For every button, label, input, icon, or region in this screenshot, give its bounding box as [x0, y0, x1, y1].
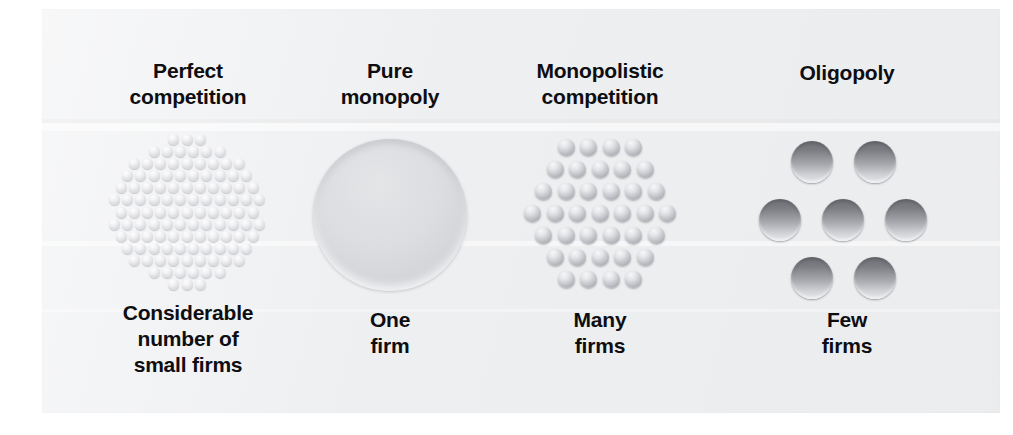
- firm-dot-medium: [648, 227, 665, 244]
- firm-dot-small: [135, 170, 146, 181]
- firm-dot-medium: [558, 183, 575, 200]
- firm-dot-small: [182, 134, 193, 145]
- firm-dot-small: [142, 255, 153, 266]
- firm-dot-medium: [558, 227, 575, 244]
- firm-dot-small: [208, 207, 219, 218]
- column-oligopoly: Oligopoly Few firms: [742, 0, 952, 435]
- firm-dot-large: [854, 257, 896, 299]
- firm-dot-small: [228, 219, 239, 230]
- firm-dot-small: [188, 194, 199, 205]
- firm-dot-small: [241, 170, 252, 181]
- firm-dot-small: [142, 207, 153, 218]
- firm-dot-small: [168, 207, 179, 218]
- firm-dot-small: [188, 219, 199, 230]
- monopoly-circle: [313, 139, 467, 291]
- firm-dot-small: [248, 231, 259, 242]
- firm-dot-medium: [569, 161, 586, 178]
- firm-dot-small: [129, 255, 140, 266]
- firm-dot-small: [241, 219, 252, 230]
- firm-dot-small: [201, 267, 212, 278]
- firm-dot-small: [201, 219, 212, 230]
- firm-dot-medium: [603, 183, 620, 200]
- firm-dot-medium: [637, 205, 654, 222]
- firm-dot-small: [228, 194, 239, 205]
- firm-dot-small: [175, 194, 186, 205]
- firm-dot-small: [162, 267, 173, 278]
- firm-dot-medium: [625, 139, 642, 156]
- figure-root: Perfect competition Considerable number …: [0, 0, 1013, 435]
- firm-dot-small: [215, 267, 226, 278]
- firm-dot-small: [195, 134, 206, 145]
- firm-dot-small: [182, 158, 193, 169]
- firm-dot-small: [175, 219, 186, 230]
- firm-dot-small: [109, 194, 120, 205]
- firm-dot-medium: [592, 161, 609, 178]
- firm-dot-small: [208, 255, 219, 266]
- firm-dot-small: [182, 255, 193, 266]
- firm-dot-small: [168, 255, 179, 266]
- firm-dot-medium: [614, 161, 631, 178]
- firm-dot-small: [195, 255, 206, 266]
- firm-dot-medium: [637, 161, 654, 178]
- caption-pure-monopoly: One firm: [314, 307, 466, 359]
- firm-dot-small: [228, 243, 239, 254]
- firm-dot-small: [234, 182, 245, 193]
- firm-dot-medium: [625, 227, 642, 244]
- firm-dot-large: [822, 199, 864, 241]
- firm-dot-small: [162, 243, 173, 254]
- firm-dot-small: [188, 146, 199, 157]
- firm-dot-small: [175, 267, 186, 278]
- firm-dot-small: [122, 170, 133, 181]
- firm-dot-small: [149, 219, 160, 230]
- firm-dot-small: [155, 158, 166, 169]
- firm-dot-small: [122, 243, 133, 254]
- column-pure-monopoly: Pure monopoly One firm: [314, 0, 466, 435]
- firm-dot-small: [182, 231, 193, 242]
- firm-dot-small: [221, 158, 232, 169]
- firm-dot-small: [221, 207, 232, 218]
- firm-dot-small: [149, 243, 160, 254]
- firm-dot-small: [188, 170, 199, 181]
- firm-dot-small: [241, 194, 252, 205]
- firm-dot-small: [182, 207, 193, 218]
- column-monopolistic-competition: Monopolistic competition Many firms: [490, 0, 710, 435]
- firm-dot-small: [175, 146, 186, 157]
- firm-dot-medium: [580, 139, 597, 156]
- firm-dot-small: [142, 231, 153, 242]
- firm-dot-small: [248, 182, 259, 193]
- firm-dot-medium: [625, 183, 642, 200]
- firm-dot-medium: [659, 205, 676, 222]
- firm-dot-medium: [569, 205, 586, 222]
- firm-dot-small: [234, 231, 245, 242]
- firm-dot-small: [201, 146, 212, 157]
- firm-dot-small: [168, 158, 179, 169]
- firm-dot-small: [149, 267, 160, 278]
- firm-dot-small: [168, 134, 179, 145]
- firm-dot-small: [234, 255, 245, 266]
- firm-dot-small: [241, 243, 252, 254]
- firm-dot-small: [201, 170, 212, 181]
- firm-dot-small: [221, 182, 232, 193]
- firm-dot-medium: [535, 183, 552, 200]
- firm-dot-small: [149, 194, 160, 205]
- firm-dot-medium: [603, 139, 620, 156]
- firm-dot-medium: [592, 205, 609, 222]
- firm-dot-small: [122, 194, 133, 205]
- firm-dot-small: [215, 243, 226, 254]
- firm-dot-small: [234, 158, 245, 169]
- firm-dot-small: [221, 255, 232, 266]
- firm-dot-small: [116, 231, 127, 242]
- firm-dot-small: [109, 219, 120, 230]
- firm-dot-small: [129, 158, 140, 169]
- firm-dot-small: [195, 207, 206, 218]
- firm-dot-small: [155, 207, 166, 218]
- firm-dot-small: [168, 279, 179, 290]
- firm-dot-small: [201, 194, 212, 205]
- firm-dot-medium: [580, 271, 597, 288]
- firm-dot-medium: [580, 227, 597, 244]
- firm-dot-small: [135, 243, 146, 254]
- firm-dot-small: [122, 219, 133, 230]
- firm-dot-small: [201, 243, 212, 254]
- caption-oligopoly: Few firms: [742, 307, 952, 359]
- firm-dot-small: [162, 219, 173, 230]
